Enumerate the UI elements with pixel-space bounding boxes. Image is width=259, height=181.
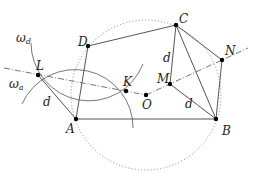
label-C: C — [179, 12, 188, 26]
segment-MB — [170, 84, 216, 119]
segment-CN — [176, 25, 222, 60]
segment-DC — [88, 25, 176, 46]
label-D: D — [77, 35, 88, 49]
segment-CB — [176, 25, 216, 119]
label-M: M — [156, 72, 170, 86]
label-K: K — [122, 75, 133, 89]
geometry-diagram: A B C D L K O M N d d d ωd ωa — [0, 0, 259, 181]
omega-d-symbol: ω — [16, 31, 26, 45]
label-d-LA: d — [43, 95, 51, 109]
label-d-CM: d — [163, 51, 171, 65]
omega-a-symbol: ω — [9, 77, 19, 91]
point-A — [74, 117, 78, 121]
point-B — [214, 117, 218, 121]
omega-a-subscript: a — [19, 83, 24, 92]
label-A: A — [65, 122, 75, 136]
label-L: L — [35, 59, 44, 73]
segment-CM — [170, 25, 176, 84]
label-B: B — [221, 124, 231, 138]
label-O: O — [142, 98, 152, 112]
label-d-MB: d — [185, 97, 193, 111]
point-O — [144, 93, 148, 97]
label-omega-a: ωa — [9, 77, 24, 92]
point-K — [124, 89, 128, 93]
omega-d-subscript: d — [26, 37, 31, 46]
point-N — [220, 58, 224, 62]
label-omega-d: ωd — [16, 31, 31, 46]
point-C — [174, 23, 178, 27]
segment-AD — [76, 46, 88, 119]
point-L — [36, 73, 40, 77]
label-N: N — [224, 44, 236, 58]
